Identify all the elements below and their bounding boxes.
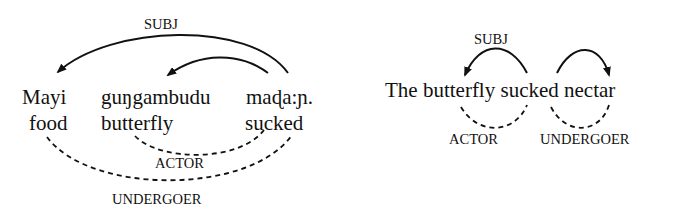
word-gungambudu: guŋgambudu [101, 87, 211, 108]
subj-arc-right [465, 48, 527, 75]
subj-label-right: SUBJ [474, 32, 508, 47]
undergoer-arc-right [551, 105, 609, 128]
short-arc-left [168, 57, 268, 75]
undergoer-label-left: UNDERGOER [112, 192, 201, 207]
gloss-butterfly: butterfly [101, 113, 173, 134]
word-madan: maɖa:ɲ. [246, 87, 313, 108]
undergoer-solid-arc-right [557, 50, 609, 75]
gloss-sucked: sucked [245, 113, 303, 134]
subj-arc-left [58, 35, 288, 73]
actor-label-left: ACTOR [155, 156, 204, 171]
actor-arc-right [461, 105, 527, 128]
gloss-food: food [29, 113, 68, 134]
word-mayi: Mayi [22, 87, 66, 108]
subj-label-left: SUBJ [144, 17, 178, 32]
actor-label-right: ACTOR [449, 132, 498, 147]
arcs-layer [0, 0, 674, 219]
sentence-right: The butterfly sucked nectar [385, 80, 615, 101]
undergoer-label-right: UNDERGOER [540, 132, 629, 147]
